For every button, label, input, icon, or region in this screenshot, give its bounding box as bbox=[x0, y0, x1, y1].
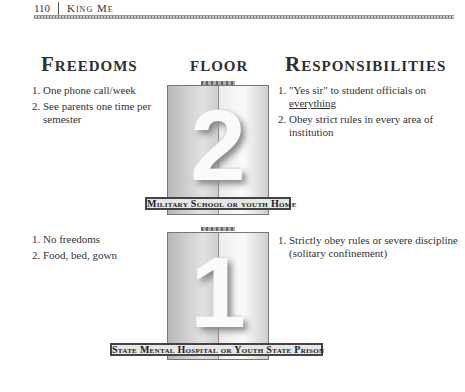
floor-heading: floor bbox=[190, 52, 248, 77]
floor-2-label: Military School or youth Home bbox=[145, 197, 291, 210]
list-item: 1.Strictly obey rules or severe discipli… bbox=[278, 234, 458, 260]
floor-number: 1 bbox=[168, 237, 268, 347]
book-title: King Me bbox=[67, 2, 114, 14]
item-text: See parents one time per semester bbox=[43, 100, 151, 125]
header-divider bbox=[58, 2, 59, 16]
item-text-underlined: everything bbox=[289, 97, 336, 109]
floor-1-elevator-door: 1 bbox=[167, 232, 269, 360]
item-text: No freedoms bbox=[43, 233, 100, 245]
list-item: 2.See parents one time per semester bbox=[32, 100, 162, 126]
floor-2-freedoms-list: 1.One phone call/week 2.See parents one … bbox=[32, 84, 162, 129]
floor-2-elevator-door: 2 bbox=[167, 85, 269, 215]
list-item: 1."Yes sir" to student officials on ever… bbox=[278, 84, 453, 110]
floor-2-responsibilities-list: 1."Yes sir" to student officials on ever… bbox=[278, 84, 453, 142]
item-text: Food, bed, gown bbox=[43, 249, 117, 261]
item-number: 1. bbox=[278, 84, 286, 97]
item-number: 2. bbox=[32, 100, 40, 113]
floor-1-label: State Mental Hospital or Youth State Pri… bbox=[110, 343, 323, 356]
item-text: One phone call/week bbox=[43, 84, 136, 96]
item-text: Strictly obey rules or severe discipline… bbox=[289, 234, 458, 259]
header-rule bbox=[34, 15, 454, 19]
item-number: 1. bbox=[32, 84, 40, 97]
floor-1-responsibilities-list: 1.Strictly obey rules or severe discipli… bbox=[278, 234, 458, 263]
freedoms-heading: Freedoms bbox=[41, 52, 138, 77]
responsibilities-heading: Responsibilities bbox=[285, 52, 446, 77]
floor-1-indicator bbox=[201, 227, 235, 231]
list-item: 1.One phone call/week bbox=[32, 84, 162, 97]
list-item: 2.Food, bed, gown bbox=[32, 249, 162, 262]
item-number: 1. bbox=[278, 234, 286, 247]
floor-number: 2 bbox=[168, 90, 268, 200]
item-number: 2. bbox=[32, 249, 40, 262]
item-number: 1. bbox=[32, 233, 40, 246]
item-text: "Yes sir" to student officials on bbox=[289, 84, 426, 96]
item-number: 2. bbox=[278, 113, 286, 126]
page-number: 110 bbox=[34, 2, 50, 14]
list-item: 1.No freedoms bbox=[32, 233, 162, 246]
floor-1-freedoms-list: 1.No freedoms 2.Food, bed, gown bbox=[32, 233, 162, 265]
item-text: Obey strict rules in every area of insti… bbox=[289, 113, 433, 138]
list-item: 2.Obey strict rules in every area of ins… bbox=[278, 113, 453, 139]
